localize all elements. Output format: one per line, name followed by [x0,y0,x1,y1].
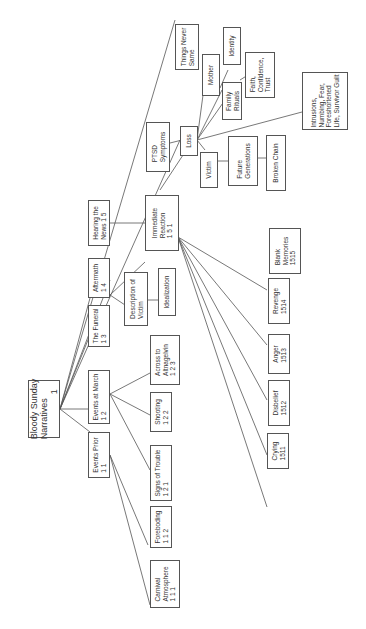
node-funeral: The Funeral 1 3 [88,305,110,347]
node-mother: Mother [202,54,220,96]
node-loss: Loss [180,126,198,156]
node-crying: Crying 1511 [267,433,289,469]
node-disbelief: Disbelief 1512 [268,380,290,426]
node-things-never: Things Never Same [175,24,199,70]
node-immediate: Immediate Reaction 1 5 1 [145,195,179,251]
node-hearing: Hearing the News 1 5 [88,200,110,246]
node-intrusions: Intrusions, Numbing, Fear, Foreshortened… [302,72,348,130]
node-future-gen: Future Generations [228,136,258,186]
node-broken-chain: Broken Chain [266,135,286,191]
node-carnival: Carnival Atmosphere 1 1 1 [150,560,180,608]
node-ptsd: PTSD Symptoms [146,122,170,172]
node-shooting: Shooting 1 2 2 [150,392,172,432]
node-description: Description of Victim [124,272,148,326]
node-revenge: Revenge 1514 [268,278,290,324]
node-identity: Identity [223,27,241,65]
node-signs-trouble: Signs of Trouble 1 2 1 [150,445,172,501]
node-across: Across to Altnagelvin 1 2 3 [150,335,180,385]
node-foreboding: Foreboding 1 1 2 [150,506,172,548]
node-idealization: Idealization [158,268,176,316]
node-family-rituals: Family Rituals [222,82,242,120]
node-anger: Anger 1513 [268,334,290,374]
hierarchy-diagram: Bloody Sunday Narratives 1 Events Prior … [0,0,366,629]
node-events-march: Events at March 1 2 [88,370,110,424]
node-victim: Victim [200,152,218,188]
node-root: Bloody Sunday Narratives 1 [28,380,60,438]
node-aftermath: Aftermath 1 4 [88,258,110,298]
node-events-prior: Events Prior 1 1 [88,432,110,478]
node-faith: Faith, Confidence, Trust [245,52,275,98]
node-blank: Blank Memories 1515 [269,228,301,274]
